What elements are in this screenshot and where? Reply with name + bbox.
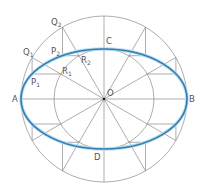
label-O: O [107, 88, 114, 98]
label-D: D [94, 152, 101, 162]
ellipse-construction-diagram: A B C D O Q1 Q2 P1 P2 R1 R2 [0, 0, 206, 193]
label-Q1: Q1 [23, 47, 34, 58]
center-point [103, 98, 106, 101]
label-P2: P2 [51, 46, 60, 57]
radial-line [104, 99, 146, 171]
label-B: B [189, 94, 195, 104]
label-Q2: Q2 [51, 17, 62, 28]
label-P1: P1 [31, 77, 40, 88]
label-C: C [106, 36, 112, 46]
label-R1: R1 [62, 66, 72, 77]
label-A: A [12, 94, 18, 104]
label-R2: R2 [81, 55, 91, 66]
